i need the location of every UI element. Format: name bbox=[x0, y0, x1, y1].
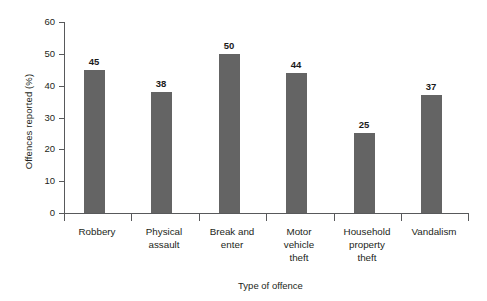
x-category-line: Break and bbox=[197, 225, 267, 238]
x-tick-boundary-1 bbox=[131, 214, 132, 221]
y-tick-label-10: 10 bbox=[33, 176, 55, 186]
bar-value-vandalism: 37 bbox=[411, 81, 451, 92]
y-tick-label-40: 40 bbox=[33, 81, 55, 91]
y-tick-20 bbox=[59, 149, 65, 150]
x-tick-boundary-6 bbox=[468, 214, 469, 221]
y-tick-50 bbox=[59, 54, 65, 55]
bar-physical-assault bbox=[151, 92, 172, 213]
x-tick-boundary-3 bbox=[266, 214, 267, 221]
x-category-line: assault bbox=[129, 238, 199, 251]
bar-value-robbery: 45 bbox=[74, 56, 114, 67]
x-tick-boundary-5 bbox=[401, 214, 402, 221]
bar-vandalism bbox=[421, 95, 442, 213]
bar-value-motor-vehicle-theft: 44 bbox=[276, 59, 316, 70]
x-category-label-household-property-theft: Household property theft bbox=[332, 225, 402, 264]
x-category-line: Motor bbox=[264, 225, 334, 238]
y-tick-label-30: 30 bbox=[33, 113, 55, 123]
x-tick-boundary-2 bbox=[199, 214, 200, 221]
x-axis-title-text: Type of offence bbox=[238, 280, 303, 291]
x-category-line: Physical bbox=[129, 225, 199, 238]
x-category-line: theft bbox=[264, 251, 334, 264]
y-tick-60 bbox=[59, 22, 65, 23]
y-tick-label-0: 0 bbox=[33, 208, 55, 218]
x-category-line: Robbery bbox=[62, 225, 132, 238]
bar-motor-vehicle-theft bbox=[286, 73, 307, 213]
bar-value-break-and-enter: 50 bbox=[209, 40, 249, 51]
x-tick-boundary-4 bbox=[334, 214, 335, 221]
x-category-label-motor-vehicle-theft: Motor vehicle theft bbox=[264, 225, 334, 264]
x-category-line: Household bbox=[332, 225, 402, 238]
bar-chart: Offences reported (%) 0 10 20 30 40 50 6… bbox=[0, 0, 487, 301]
x-category-label-robbery: Robbery bbox=[62, 225, 132, 238]
x-category-line: property bbox=[332, 238, 402, 251]
y-tick-10 bbox=[59, 181, 65, 182]
y-tick-label-60: 60 bbox=[33, 17, 55, 27]
bar-break-and-enter bbox=[219, 54, 240, 213]
bar-value-physical-assault: 38 bbox=[141, 78, 181, 89]
y-tick-30 bbox=[59, 118, 65, 119]
x-tick-boundary-0 bbox=[64, 214, 65, 221]
x-axis-title: Type of offence bbox=[0, 280, 487, 291]
x-category-line: Vandalism bbox=[399, 225, 469, 238]
y-tick-40 bbox=[59, 86, 65, 87]
x-category-line: vehicle bbox=[264, 238, 334, 251]
bar-robbery bbox=[84, 70, 105, 213]
x-category-label-break-and-enter: Break and enter bbox=[197, 225, 267, 251]
x-category-label-vandalism: Vandalism bbox=[399, 225, 469, 238]
bar-household-property-theft bbox=[354, 133, 375, 213]
x-category-line: enter bbox=[197, 238, 267, 251]
x-category-label-physical-assault: Physical assault bbox=[129, 225, 199, 251]
x-category-line: theft bbox=[332, 251, 402, 264]
bar-value-household-property-theft: 25 bbox=[344, 119, 384, 130]
y-tick-label-20: 20 bbox=[33, 144, 55, 154]
y-tick-label-50: 50 bbox=[33, 49, 55, 59]
